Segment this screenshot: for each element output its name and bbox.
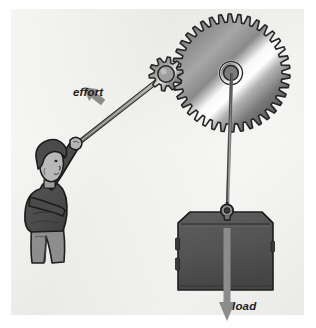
gear-mechanism-illustration [0, 0, 316, 328]
load-block-fitting-left-upper [176, 238, 180, 250]
hook-body [224, 215, 231, 220]
load-block-fitting-left-lower [176, 258, 180, 270]
small-gear-hub [158, 66, 174, 82]
figure-scene: effort load [0, 0, 316, 328]
load-arrow-shaft [224, 228, 231, 306]
person [25, 137, 82, 263]
small-gear-hub-highlight [161, 68, 167, 74]
load-block-fitting-right [271, 241, 275, 252]
effort-label: effort [73, 86, 103, 98]
person-hand [70, 137, 82, 150]
hook-ring-inner [224, 208, 230, 214]
person-eye [54, 160, 57, 163]
load-label: load [232, 300, 256, 312]
